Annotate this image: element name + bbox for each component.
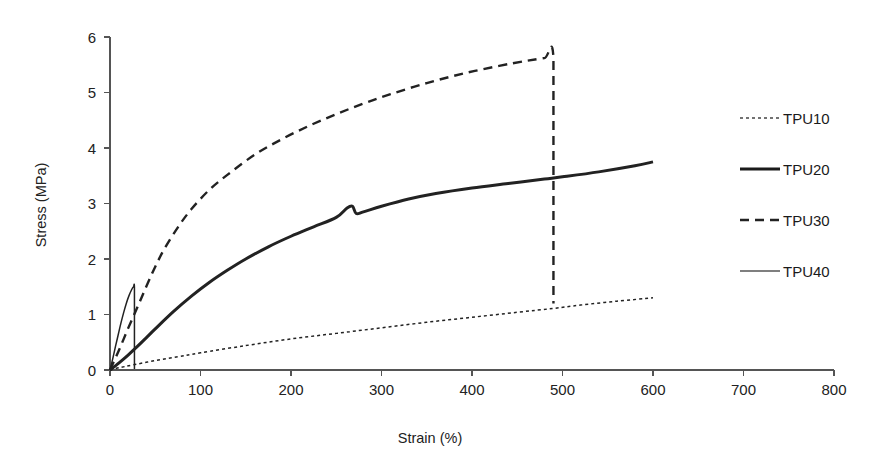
chart-legend: TPU10TPU20TPU30TPU40 <box>740 110 830 280</box>
x-tick-label: 100 <box>188 381 213 398</box>
x-tick-label: 700 <box>731 381 756 398</box>
y-tick-label: 6 <box>88 29 96 46</box>
y-tick-label: 0 <box>88 362 96 379</box>
y-tick-label: 5 <box>88 84 96 101</box>
series-line-tpu10 <box>110 298 653 370</box>
x-tick-label: 400 <box>459 381 484 398</box>
y-tick-label: 4 <box>88 140 96 157</box>
axes <box>110 37 834 370</box>
chart-figure: 0123456 0100200300400500600700800 Stress… <box>0 0 890 475</box>
series-line-tpu40 <box>110 284 134 370</box>
stress-strain-chart: 0123456 0100200300400500600700800 Stress… <box>0 0 890 475</box>
x-axis-title: Strain (%) <box>398 430 462 446</box>
x-tick-label: 800 <box>821 381 846 398</box>
x-tick-label: 500 <box>550 381 575 398</box>
x-tick-label: 300 <box>369 381 394 398</box>
y-tick-label: 3 <box>88 195 96 212</box>
x-axis-ticks: 0100200300400500600700800 <box>106 370 847 398</box>
data-series-layer <box>110 47 653 370</box>
y-axis-ticks: 0123456 <box>88 29 110 379</box>
x-tick-label: 200 <box>278 381 303 398</box>
y-axis-title: Stress (MPa) <box>33 163 49 248</box>
series-line-tpu20 <box>110 162 653 370</box>
legend-label-tpu10: TPU10 <box>783 110 830 127</box>
legend-label-tpu30: TPU30 <box>783 212 830 229</box>
y-tick-label: 1 <box>88 306 96 323</box>
x-tick-label: 600 <box>640 381 665 398</box>
legend-label-tpu40: TPU40 <box>783 263 830 280</box>
legend-label-tpu20: TPU20 <box>783 161 830 178</box>
series-line-tpu30 <box>110 47 553 370</box>
y-tick-label: 2 <box>88 251 96 268</box>
x-tick-label: 0 <box>106 381 114 398</box>
